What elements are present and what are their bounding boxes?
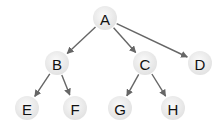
node-label: H [168,101,179,118]
node-label: F [70,101,79,118]
node-b: B [45,51,69,75]
node-label: C [140,56,151,73]
edge-b-f [62,75,70,95]
node-a: A [93,6,117,30]
edge-a-b [67,27,95,54]
node-d: D [188,51,212,75]
node-label: D [195,56,206,73]
node-label: E [22,101,32,118]
nodes-layer: ABCDEFGH [15,6,212,120]
node-f: F [63,96,87,120]
node-label: G [114,101,126,118]
node-e: E [15,96,39,120]
edge-a-d [117,24,188,57]
edge-c-g [127,74,139,95]
edge-c-h [152,74,166,96]
edge-b-e [35,74,50,97]
node-h: H [161,96,185,120]
tree-diagram: ABCDEFGH [0,0,222,130]
node-c: C [133,51,157,75]
node-label: B [52,56,62,73]
node-g: G [108,96,132,120]
node-label: A [100,11,110,28]
